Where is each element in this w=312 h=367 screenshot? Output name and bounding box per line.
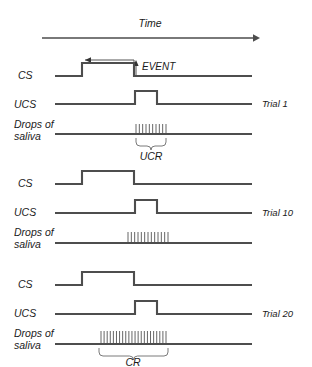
row-label-saliva-line1-1: Drops of xyxy=(14,118,55,130)
row-label-cs-10: CS xyxy=(18,177,33,189)
cs-trace-trial-10 xyxy=(55,171,252,184)
saliva-ticks-trial-20 xyxy=(101,331,166,343)
cs-interval-arrow xyxy=(85,57,134,76)
time-arrow-head-icon xyxy=(253,34,260,42)
trial-name-1: Trial 1 xyxy=(262,98,288,109)
ucs-trace-trial-1 xyxy=(55,91,252,104)
row-label-ucs-20: UCS xyxy=(14,307,36,319)
ucr-brace xyxy=(136,138,166,150)
trial-block-20: CS UCS Trial 20 Drops of saliva CR xyxy=(14,272,294,367)
event-marker: EVENT xyxy=(133,60,176,76)
saliva-ticks-trial-10 xyxy=(128,232,168,242)
time-axis-label: Time xyxy=(138,17,161,29)
row-label-saliva-line2-10: saliva xyxy=(14,238,41,250)
row-label-saliva-line2-20: saliva xyxy=(14,339,41,351)
ucr-label: UCR xyxy=(140,150,163,162)
trial-block-10: CS UCS Trial 10 Drops of saliva xyxy=(14,171,294,250)
ucs-trace-trial-10 xyxy=(55,200,252,213)
conditioning-diagram: Time EVENT CS UCS xyxy=(0,0,312,367)
cs-trace-trial-20 xyxy=(55,272,252,285)
trial-block-1: EVENT CS UCS Trial 1 Drops of saliva UCR xyxy=(14,57,288,162)
row-label-ucs-1: UCS xyxy=(14,98,36,110)
trial-name-20: Trial 20 xyxy=(262,308,294,319)
row-label-ucs-10: UCS xyxy=(14,206,36,218)
row-label-saliva-line1-10: Drops of xyxy=(14,226,55,238)
ucr-brace-group: UCR xyxy=(136,138,166,162)
row-label-saliva-line1-20: Drops of xyxy=(14,327,55,339)
trial-name-10: Trial 10 xyxy=(262,207,294,218)
row-label-cs-20: CS xyxy=(18,278,33,290)
ucs-trace-trial-20 xyxy=(55,301,252,314)
cr-label: CR xyxy=(125,356,141,367)
row-label-saliva-line2-1: saliva xyxy=(14,130,41,142)
diagram-canvas: Time EVENT CS UCS xyxy=(0,0,312,367)
time-axis-group: Time xyxy=(42,17,260,42)
saliva-ticks-trial-1 xyxy=(136,124,166,133)
cr-brace-group: CR xyxy=(99,348,168,367)
event-label: EVENT xyxy=(142,61,176,72)
row-label-cs-1: CS xyxy=(18,69,33,81)
